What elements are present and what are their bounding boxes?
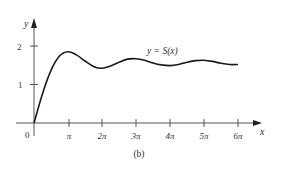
- y-axis-label: y: [23, 18, 29, 29]
- x-tick-label-6pi: 6π: [233, 131, 243, 141]
- figure-caption: (b): [133, 149, 144, 160]
- plot-area: y x 0 2 1 π 2π 3π 4π 5π 6π y = S(x) (b): [0, 0, 284, 170]
- curve-s-of-x: [34, 52, 238, 123]
- x-tick-label-5pi: 5π: [199, 131, 209, 141]
- y-tick-label-1: 1: [18, 80, 23, 90]
- x-tick-label-3pi: 3π: [130, 131, 141, 141]
- y-tick-label-2: 2: [17, 42, 22, 52]
- x-tick-label-2pi: 2π: [97, 131, 107, 141]
- x-tick-label-4pi: 4π: [165, 131, 175, 141]
- curve-label: y = S(x): [146, 46, 178, 57]
- origin-label: 0: [25, 130, 30, 140]
- y-axis-arrow-icon: [31, 18, 37, 28]
- figure-b: y x 0 2 1 π 2π 3π 4π 5π 6π y = S(x) (b): [0, 0, 284, 170]
- x-axis-label: x: [259, 126, 265, 137]
- x-tick-label-pi: π: [67, 131, 72, 141]
